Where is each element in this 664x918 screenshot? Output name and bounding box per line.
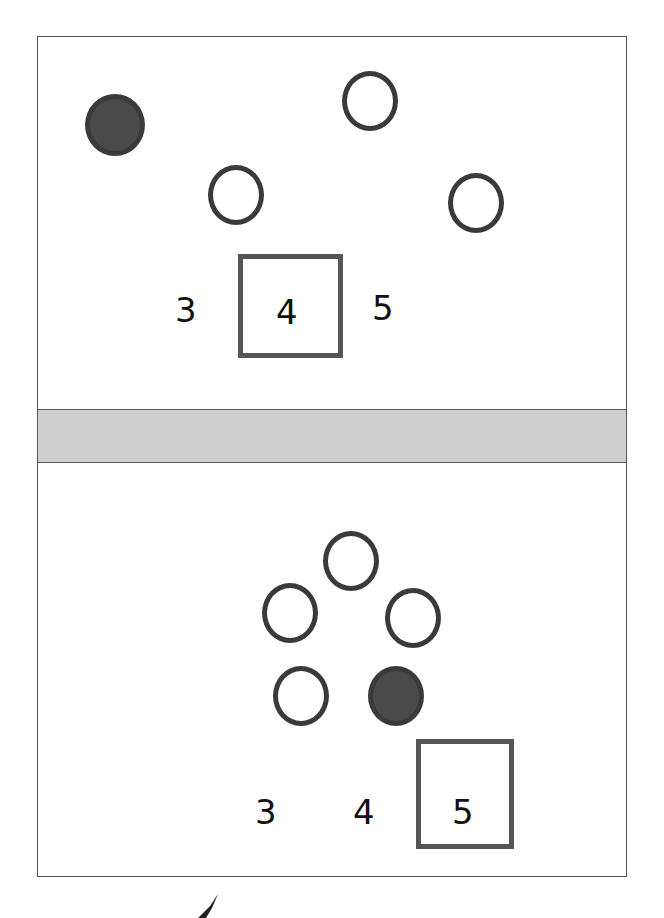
circle xyxy=(208,165,264,225)
selected-answer-box[interactable]: 4 xyxy=(238,254,343,358)
circle xyxy=(448,173,504,233)
circle xyxy=(262,583,318,643)
circle xyxy=(273,666,329,726)
circle xyxy=(385,588,441,648)
circle xyxy=(323,531,379,591)
divider-band xyxy=(38,409,626,463)
choice-5[interactable]: 5 xyxy=(372,291,394,325)
problem-2: 3 4 5 xyxy=(38,463,626,878)
choice-4: 4 xyxy=(276,295,298,329)
filled-circle xyxy=(85,94,145,156)
choice-3[interactable]: 3 xyxy=(255,795,277,829)
filled-circle xyxy=(368,666,424,726)
circle xyxy=(342,71,398,131)
problem-1: 3 4 5 xyxy=(38,37,626,409)
choice-5: 5 xyxy=(452,795,474,829)
worksheet-frame: 3 4 5 3 4 5 xyxy=(37,36,627,877)
choice-3[interactable]: 3 xyxy=(175,293,197,327)
choice-4[interactable]: 4 xyxy=(353,795,375,829)
selected-answer-box[interactable]: 5 xyxy=(416,739,514,849)
pen-stroke-icon xyxy=(196,892,226,918)
